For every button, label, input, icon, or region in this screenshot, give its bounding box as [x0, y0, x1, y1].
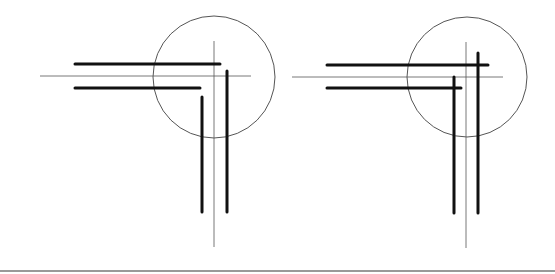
right-corner-diagram [292, 17, 527, 248]
corner-line-diagrams [0, 0, 555, 274]
diagram-canvas [0, 0, 555, 274]
left-corner-diagram [40, 16, 275, 247]
